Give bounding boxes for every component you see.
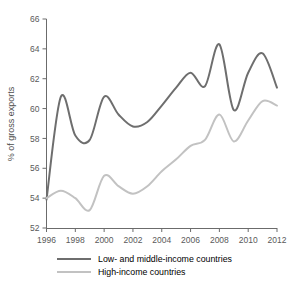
y-tick-label: 58	[30, 134, 40, 144]
x-tick-label: 2000	[95, 235, 114, 245]
x-tick-label: 2006	[181, 235, 200, 245]
legend-line-swatch	[57, 271, 91, 273]
y-tick-label: 52	[30, 223, 40, 233]
y-tick-label: 66	[30, 14, 40, 24]
y-axis-title: % of gross exports	[6, 86, 16, 161]
y-tick-label: 64	[30, 44, 40, 54]
x-tick-label: 2008	[210, 235, 229, 245]
x-tick-label: 1998	[66, 235, 85, 245]
y-tick-label: 56	[30, 163, 40, 173]
x-tick-label: 2004	[152, 235, 171, 245]
data-series-group	[47, 44, 278, 211]
chart-legend: Low- and middle-income countriesHigh-inc…	[57, 252, 232, 278]
y-axis: 5254565860626466	[30, 14, 46, 233]
line-chart-plot: 5254565860626466 19961998200020022004200…	[0, 0, 290, 250]
x-tick-label: 2010	[239, 235, 258, 245]
x-axis: 199619982000200220042006200820102012	[37, 228, 287, 245]
chart-figure: 5254565860626466 19961998200020022004200…	[0, 0, 290, 294]
legend-item-label: Low- and middle-income countries	[98, 254, 232, 264]
legend-line-swatch	[57, 258, 91, 260]
x-tick-label: 2012	[268, 235, 287, 245]
y-tick-label: 60	[30, 104, 40, 114]
x-tick-label: 2002	[123, 235, 142, 245]
x-tick-label: 1996	[37, 235, 56, 245]
series-line-2	[47, 101, 278, 211]
legend-item[interactable]: Low- and middle-income countries	[57, 252, 232, 265]
y-axis-tick-labels: 5254565860626466	[30, 14, 40, 233]
series-line-1	[47, 44, 278, 200]
y-tick-label: 54	[30, 193, 40, 203]
legend-item-label: High-income countries	[98, 267, 186, 277]
x-axis-tick-labels: 199619982000200220042006200820102012	[37, 235, 287, 245]
legend-item[interactable]: High-income countries	[57, 265, 232, 278]
y-tick-label: 62	[30, 74, 40, 84]
